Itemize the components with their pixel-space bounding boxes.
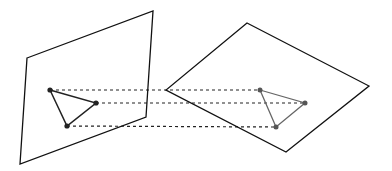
- left-triangle: [47, 87, 98, 128]
- right-image-plane: [166, 23, 369, 152]
- left-image-plane: [20, 11, 153, 164]
- right-triangle: [258, 88, 308, 130]
- projection-diagram: [0, 0, 392, 171]
- left-vertex-a: [47, 87, 52, 92]
- right-vertex-b: [303, 101, 308, 106]
- right-vertex-c: [274, 125, 279, 130]
- right-vertex-a: [258, 88, 263, 93]
- left-vertex-b: [93, 100, 98, 105]
- dashed-line-bottom: [67, 126, 276, 127]
- left-vertex-c: [64, 123, 69, 128]
